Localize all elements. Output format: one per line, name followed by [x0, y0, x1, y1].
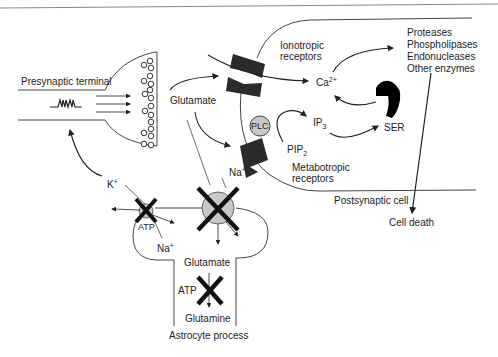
label-ip3: IP3 [313, 117, 326, 132]
glutamate-to-metabotropic-arrow [195, 112, 230, 146]
label-postsynaptic-cell: Postsynaptic cell [334, 195, 408, 206]
potassium-arrow [70, 130, 102, 176]
sodium-uptake-line [222, 178, 226, 188]
potassium-text: K [107, 179, 114, 190]
enzymes-to-cell-death-arrow [412, 73, 431, 213]
release-arrows [96, 96, 130, 112]
ser-to-calcium-arrow [335, 96, 376, 105]
enzyme-item: Proteases [407, 27, 478, 39]
pump-sodium-line [154, 220, 162, 238]
calcium-text: Ca [316, 77, 329, 88]
label-atp-astrocyte: ATP [178, 285, 197, 296]
label-atp-pump: ATP [138, 222, 155, 233]
ip3-to-ser-arrow [330, 126, 378, 137]
sodium-bottom-text: Na [157, 243, 170, 254]
top-border [0, 4, 498, 8]
label-cell-death: Cell death [389, 217, 434, 228]
presynaptic-terminal-outline [18, 52, 157, 146]
label-glutamate-astrocyte: Glutamate [184, 257, 230, 268]
label-pip2: PIP2 [287, 144, 307, 159]
potassium-line [125, 185, 148, 207]
glutamate-uptake-line [187, 120, 210, 185]
ser-organelle [376, 81, 400, 118]
label-metabotropic-line2: receptors [292, 173, 350, 184]
sodium-top-charge: + [242, 166, 246, 173]
ip3-subscript: 3 [322, 123, 326, 130]
label-calcium: Ca2+ [316, 74, 337, 88]
label-ionotropic-line2: receptors [280, 51, 324, 62]
label-metabotropic-receptors: Metabotropic receptors [292, 162, 350, 184]
glutamine-synthetase-blocked-cross-icon [198, 277, 222, 304]
glutamate-to-ionotropic-arrow [170, 76, 218, 90]
label-presynaptic-terminal: Presynaptic terminal [21, 76, 112, 87]
label-sodium-bottom: Na+ [157, 240, 174, 254]
calcium-charge: 2+ [329, 76, 337, 83]
label-metabotropic-line1: Metabotropic [292, 162, 350, 173]
label-plc: PLC [251, 121, 269, 132]
pump-efflux-arrow [112, 209, 140, 210]
label-glutamine: Glutamine [185, 313, 231, 324]
action-potential-icon [50, 100, 82, 107]
pip2-subscript: 2 [303, 150, 307, 157]
pip2-text: PIP [287, 144, 303, 155]
synaptic-vesicles [141, 58, 154, 148]
postsynaptic-cell-membrane [240, 92, 476, 191]
enzyme-item: Other enzymes [407, 63, 478, 75]
label-ser: SER [384, 122, 405, 133]
enzyme-item: Phospholipases [407, 39, 478, 51]
sodium-top-text: Na [229, 167, 242, 178]
label-astrocyte-process: Astrocyte process [169, 330, 248, 341]
pip2-to-ip3-arrow [277, 111, 306, 142]
sodium-bottom-charge: + [170, 242, 174, 249]
ionotropic-receptor-bottom [226, 77, 262, 97]
enzyme-list: Proteases Phospholipases Endonucleases O… [407, 27, 478, 75]
potassium-charge: + [114, 178, 118, 185]
label-ionotropic-line1: Ionotropic [280, 40, 324, 51]
label-potassium: K+ [107, 176, 118, 190]
label-ionotropic-receptors: Ionotropic receptors [280, 40, 324, 62]
label-glutamate: Glutamate [170, 95, 216, 106]
enzyme-item: Endonucleases [407, 51, 478, 63]
label-sodium-top: Na+ [229, 164, 246, 178]
ionotropic-receptor-top [230, 54, 265, 78]
calcium-to-enzymes-arrow [333, 48, 393, 72]
